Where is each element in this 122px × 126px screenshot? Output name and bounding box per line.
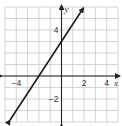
x-axis-label: x	[113, 78, 118, 88]
y-axis-label: y	[64, 4, 69, 14]
y-tick-label: −2	[49, 94, 59, 104]
x-tick-label: −4	[11, 78, 21, 88]
x-tick-label: 2	[82, 78, 87, 88]
y-tick-label: 4	[54, 25, 59, 35]
x-tick-label: 4	[104, 78, 109, 88]
coordinate-graph: −4244−2 x y	[0, 0, 122, 126]
